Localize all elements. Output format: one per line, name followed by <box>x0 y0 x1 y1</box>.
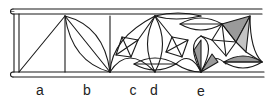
border-construction-diagram: a b c d e <box>0 0 278 106</box>
top-rail <box>11 9 263 14</box>
label-b: b <box>83 82 91 98</box>
step-a-drawing <box>19 16 65 72</box>
step-b-drawing <box>65 16 110 72</box>
label-c: c <box>130 82 137 98</box>
label-d: d <box>150 82 158 98</box>
label-e: e <box>197 83 205 99</box>
step-labels: a b c d e <box>36 82 205 99</box>
bottom-rail <box>11 72 265 77</box>
diagram-canvas: a b c d e <box>0 0 278 106</box>
upper-lens <box>180 18 222 30</box>
left-post <box>14 14 19 72</box>
label-a: a <box>36 82 44 98</box>
